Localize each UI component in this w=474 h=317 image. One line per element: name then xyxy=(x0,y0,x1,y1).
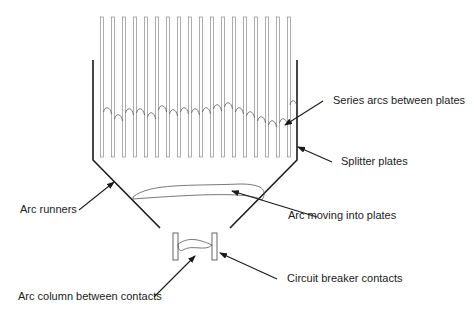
splitter-plate xyxy=(178,17,181,157)
splitter-plate xyxy=(233,17,236,157)
series-arc xyxy=(192,109,200,115)
splitter-plate xyxy=(167,17,170,157)
series-arc xyxy=(214,105,222,111)
series-arc xyxy=(247,112,255,118)
label-arc-moving: Arc moving into plates xyxy=(288,209,396,222)
splitter-plate xyxy=(123,17,126,157)
splitter-plate xyxy=(277,17,280,157)
series-arc xyxy=(225,103,233,109)
label-series-arcs: Series arcs between plates xyxy=(333,94,465,107)
series-arc xyxy=(126,109,134,115)
splitter-plate xyxy=(222,17,225,157)
leader-arrows xyxy=(79,101,332,297)
splitter-plate xyxy=(101,17,104,157)
series-arc xyxy=(203,108,211,114)
label-arc-column: Arc column between contacts xyxy=(18,290,162,303)
series-arc xyxy=(159,106,167,112)
series-arc xyxy=(181,108,189,114)
series-arc xyxy=(269,121,277,127)
series-arc xyxy=(137,109,145,115)
splitter-plate xyxy=(200,17,203,157)
splitter-plate xyxy=(156,17,159,157)
splitter-plate xyxy=(211,17,214,157)
series-arc xyxy=(104,108,112,114)
label-splitter-plates: Splitter plates xyxy=(341,155,408,168)
series-arc xyxy=(236,108,244,114)
splitter-plate xyxy=(266,17,269,157)
splitter-plate xyxy=(189,17,192,157)
label-arc-runners: Arc runners xyxy=(20,203,77,216)
splitter-plate xyxy=(145,17,148,157)
splitter-plate xyxy=(112,17,115,157)
series-arc xyxy=(148,113,156,119)
arc-column xyxy=(178,239,212,250)
splitter-plate xyxy=(134,17,137,157)
series-arc xyxy=(258,117,266,123)
splitter-plates xyxy=(101,17,291,157)
splitter-plate xyxy=(244,17,247,157)
series-arc xyxy=(170,110,178,116)
label-breaker-contacts: Circuit breaker contacts xyxy=(287,272,403,285)
series-arc xyxy=(115,115,123,121)
arc-moving-into-plates xyxy=(133,184,264,200)
splitter-plate xyxy=(255,17,258,157)
splitter-plate xyxy=(288,17,291,157)
